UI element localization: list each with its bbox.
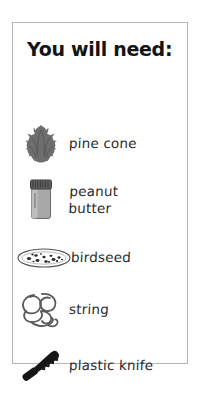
list-item-label: peanut butter <box>68 183 119 218</box>
list-item-label: string <box>69 301 110 318</box>
list-item: string <box>13 282 187 338</box>
list-item: birdseed <box>13 230 187 286</box>
list-item-label: plastic knife <box>69 357 154 374</box>
list-item: pine cone <box>13 116 187 172</box>
list-item-label: birdseed <box>71 249 132 266</box>
string-tangle-icon <box>13 284 69 336</box>
pine-cone-icon <box>13 118 69 170</box>
birdseed-dish-icon <box>13 232 75 284</box>
list-item: plastic knife <box>13 338 187 393</box>
materials-card: You will need: <box>12 22 188 364</box>
list-item: peanut butter <box>13 172 187 228</box>
list-item-label: pine cone <box>69 135 138 152</box>
plastic-knife-icon <box>13 340 69 392</box>
page-title: You will need: <box>13 23 187 60</box>
peanut-butter-jar-icon <box>13 174 69 226</box>
